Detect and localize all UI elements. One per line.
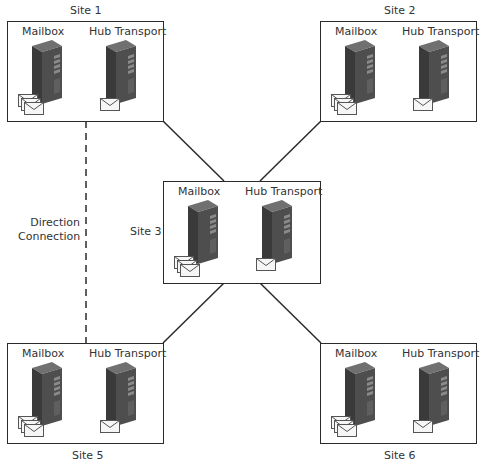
envelope-icon: [100, 420, 122, 434]
site-box-6: Mailbox Hub Transport: [320, 343, 477, 444]
link-site1-site3: [163, 121, 224, 181]
envelope-icon: [413, 420, 435, 434]
envelope-icon: [100, 98, 122, 112]
envelope-stack-icon: [331, 94, 357, 116]
dashed-link-label-line1: Direction: [18, 216, 80, 230]
site-label: Site 5: [72, 449, 104, 462]
network-diagram: Site 1 Mailbox Hub Transport Site 2 Mail…: [0, 0, 486, 464]
server-tower-icon: [92, 362, 140, 428]
server-tower-icon: [92, 40, 140, 106]
site-box-2: Mailbox Hub Transport: [320, 21, 477, 122]
server-label-hub: Hub Transport: [245, 185, 322, 198]
envelope-stack-icon: [331, 416, 357, 438]
server-tower-icon: [405, 362, 453, 428]
site-label: Site 3: [130, 225, 162, 238]
server-label-hub: Hub Transport: [89, 25, 166, 38]
envelope-stack-icon: [18, 94, 44, 116]
link-site3-site6: [260, 283, 321, 343]
server-label-hub: Hub Transport: [89, 347, 166, 360]
server-label-mailbox: Mailbox: [22, 25, 64, 38]
envelope-stack-icon: [174, 256, 200, 278]
server-label-mailbox: Mailbox: [178, 185, 220, 198]
dashed-link-label-line2: Connection: [18, 230, 80, 244]
site-label: Site 2: [384, 4, 416, 17]
link-site3-site5: [163, 283, 224, 343]
site-box-1: Mailbox Hub Transport: [7, 21, 164, 122]
server-label-mailbox: Mailbox: [335, 25, 377, 38]
server-label-hub: Hub Transport: [402, 25, 479, 38]
server-tower-icon: [405, 40, 453, 106]
site-label: Site 1: [70, 4, 102, 17]
link-site2-site3: [260, 121, 321, 181]
server-label-mailbox: Mailbox: [335, 347, 377, 360]
server-tower-icon: [248, 200, 296, 266]
dashed-link-label: Direction Connection: [18, 216, 80, 244]
envelope-stack-icon: [18, 416, 44, 438]
site-box-5: Mailbox Hub Transport: [7, 343, 164, 444]
site-label: Site 6: [384, 449, 416, 462]
envelope-icon: [256, 258, 278, 272]
envelope-icon: [413, 98, 435, 112]
server-label-hub: Hub Transport: [402, 347, 479, 360]
site-box-3: Mailbox Hub Transport: [163, 181, 321, 284]
server-label-mailbox: Mailbox: [22, 347, 64, 360]
